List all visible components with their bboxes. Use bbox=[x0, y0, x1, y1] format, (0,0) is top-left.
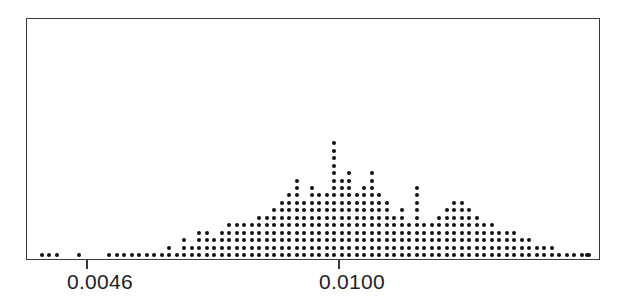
dot-plot-figure: 0.0046 0.0100 bbox=[0, 0, 629, 301]
x-axis-tick-label-0: 0.0046 bbox=[67, 269, 133, 295]
x-axis-tick-1 bbox=[338, 260, 340, 269]
plot-frame bbox=[26, 18, 600, 260]
x-axis-tick-label-1: 0.0100 bbox=[319, 269, 385, 295]
x-axis-tick-0 bbox=[86, 260, 88, 269]
